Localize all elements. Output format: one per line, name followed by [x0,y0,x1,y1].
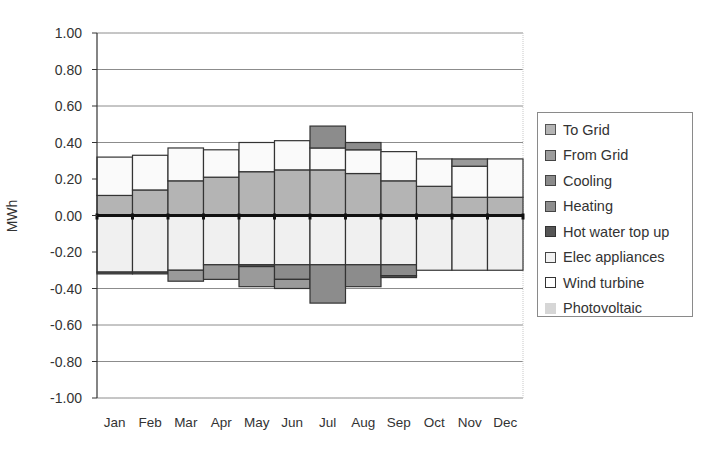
bar-segment [133,190,169,216]
legend-label: From Grid [563,147,628,163]
x-tick-label: Sep [387,415,411,430]
bar-segment [346,143,382,150]
axes [96,33,525,398]
legend-swatch-icon [545,277,556,288]
legend-item: Cooling [538,168,692,194]
legend-item: Heating [538,194,692,220]
bar-segment [346,174,382,216]
bar-segment [310,148,346,170]
x-tick-label: Feb [139,415,162,430]
bar-segment [168,270,204,281]
bar-segment [310,216,346,265]
bar-segment [133,216,169,273]
bar-segment [381,216,417,265]
legend-item: From Grid [538,143,692,169]
y-tick-label: -0.60 [50,317,82,333]
x-tick-mark [344,214,347,220]
y-tick-label: -0.40 [50,281,82,297]
bar-segment [452,159,488,166]
bar-segment [417,186,453,215]
bar-segment [310,126,346,148]
bar-segment [168,148,204,181]
x-tick-label: Jun [281,415,303,430]
bar-segment [204,177,240,215]
bar-segment [452,216,488,271]
y-tick-label: 0.20 [55,171,82,187]
y-tick-label: 0.60 [55,98,82,114]
legend-swatch-icon [545,124,556,135]
x-tick-label: Jul [319,415,336,430]
bar-segment [346,150,382,174]
bar-segment [488,197,524,215]
legend-label: Heating [563,198,613,214]
bar-segment [381,181,417,216]
x-tick-label: Jan [104,415,126,430]
legend-swatch-icon [545,252,556,263]
bar-segment [417,159,453,186]
y-tick-label: -1.00 [50,390,82,406]
bar-segment [168,181,204,216]
bar-segment [275,141,311,170]
x-axis-labels: JanFebMarAprMayJunJulAugSepOctNovDec [104,415,518,430]
bar-segment [310,265,346,303]
bar-segment [275,216,311,265]
x-tick-mark [451,214,454,220]
bar-segment [275,279,311,288]
legend-swatch-icon [545,150,556,161]
bar-segment [133,155,169,190]
y-axis-label: MWh [4,200,20,233]
x-tick-mark [486,214,489,220]
legend-item: Wind turbine [538,270,692,296]
y-axis-ticks: 1.000.800.600.400.200.00-0.20-0.40-0.60-… [50,25,97,406]
bar-segment [381,152,417,181]
legend-item: Elec appliances [538,245,692,271]
bar-segment [346,216,382,265]
bar-segment [346,265,382,287]
x-tick-mark [380,214,383,220]
legend-label: To Grid [563,122,610,138]
bar-segment [204,216,240,265]
bar-segment [97,272,133,274]
y-tick-label: 1.00 [55,25,82,41]
bar-segment [239,172,275,216]
bar-segment [239,143,275,172]
y-tick-label: -0.80 [50,354,82,370]
legend-label: Wind turbine [563,275,644,291]
bar-segment [97,216,133,273]
bar-segment [275,265,311,280]
legend-item: To Grid [538,117,692,143]
x-tick-mark [167,214,170,220]
x-tick-mark [522,214,525,220]
bar-segment [310,170,346,216]
y-tick-label: 0.80 [55,62,82,78]
y-tick-label: -0.20 [50,244,82,260]
bar-segment [133,272,169,274]
bar-segment [97,157,133,195]
x-tick-mark [202,214,205,220]
x-tick-mark [238,214,241,220]
x-tick-label: Mar [174,415,198,430]
legend-item: Photovoltaic [538,296,692,322]
bar-segment [488,216,524,271]
x-tick-label: May [244,415,270,430]
x-tick-mark [131,214,134,220]
legend-swatch-icon [545,303,556,314]
bar-segment [452,197,488,215]
bar-segment [452,166,488,197]
x-tick-label: Dec [493,415,517,430]
bar-segment [275,170,311,216]
legend-label: Photovoltaic [563,300,642,316]
legend: To GridFrom GridCoolingHeatingHot water … [537,112,693,317]
bar-segment [381,265,417,276]
x-tick-label: Nov [458,415,482,430]
x-tick-mark [415,214,418,220]
x-tick-mark [309,214,312,220]
x-tick-label: Oct [424,415,445,430]
x-tick-label: Apr [211,415,233,430]
bar-segment [168,216,204,271]
x-tick-mark [273,214,276,220]
legend-label: Hot water top up [563,224,669,240]
y-tick-label: 0.40 [55,135,82,151]
bar-segment [239,216,275,265]
bar-segment [239,267,275,287]
